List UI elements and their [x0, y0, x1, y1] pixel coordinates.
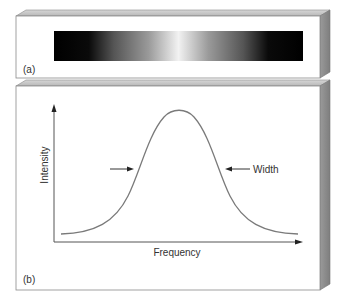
panel-a-top-face: [16, 10, 330, 16]
spectrum-bar: [54, 31, 303, 61]
panel-a-side-face: [320, 10, 330, 78]
y-axis-label: Intensity: [39, 146, 50, 183]
figure: (a) Width Intensity Frequency (b): [0, 0, 340, 305]
panel-b-label: (b): [23, 274, 35, 285]
panel-a-label: (a): [23, 64, 35, 75]
panel-b: Width Intensity Frequency (b): [16, 80, 330, 290]
width-label: Width: [253, 164, 279, 175]
panel-b-top-face: [16, 80, 330, 86]
panel-b-side-face: [320, 80, 330, 290]
x-axis-label: Frequency: [153, 247, 200, 258]
panel-b-front-face: [16, 86, 320, 290]
panel-a: (a): [16, 10, 330, 78]
